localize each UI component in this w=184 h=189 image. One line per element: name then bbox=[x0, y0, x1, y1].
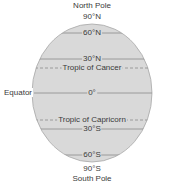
label-30s: 30°S bbox=[82, 124, 101, 133]
label-90n: 90°N bbox=[83, 12, 101, 21]
label-tropic-of-cancer: Tropic of Cancer bbox=[62, 63, 123, 72]
label-tropic-of-capricorn: Tropic of Capricorn bbox=[57, 115, 127, 124]
label-zero-degrees: 0° bbox=[87, 88, 97, 97]
label-30n: 30°N bbox=[82, 54, 102, 63]
label-south-pole: South Pole bbox=[72, 174, 111, 183]
label-60s: 60°S bbox=[82, 150, 101, 159]
label-north-pole: North Pole bbox=[73, 1, 111, 10]
label-90s: 90°S bbox=[83, 164, 100, 173]
label-60n: 60°N bbox=[82, 28, 102, 37]
label-equator: Equator bbox=[3, 88, 33, 97]
